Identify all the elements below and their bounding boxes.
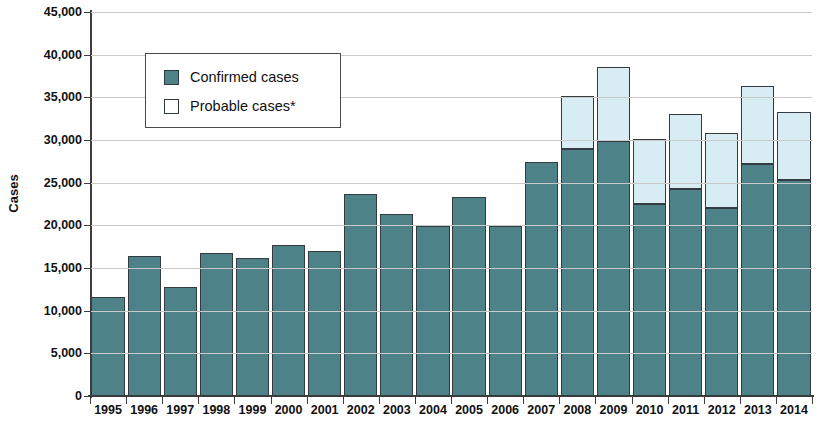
y-axis-tick-label: 30,000 (2, 134, 82, 147)
x-axis-tick-label: 2009 (600, 404, 628, 418)
x-axis-tick-label: 2000 (275, 404, 303, 418)
x-axis-tick-label: 1997 (166, 404, 194, 418)
legend-label: Confirmed cases (190, 70, 299, 85)
y-axis-tick (84, 353, 91, 354)
y-axis-tick-label: 35,000 (2, 91, 82, 104)
y-axis-tick (84, 12, 91, 13)
x-axis-tick (126, 396, 127, 404)
x-axis-tick-label: 2003 (383, 404, 411, 418)
x-axis-tick (451, 396, 452, 404)
legend-item: Confirmed cases (164, 63, 340, 92)
bar-segment-probable (669, 114, 702, 188)
y-axis-tick-label: 15,000 (2, 262, 82, 275)
bar-segment-confirmed (633, 204, 666, 396)
x-axis-tick (487, 396, 488, 404)
gridline (90, 311, 812, 312)
bar-segment-confirmed (777, 180, 810, 396)
x-axis-tick-label: 2007 (527, 404, 555, 418)
y-axis-tick-label: 40,000 (2, 48, 82, 61)
y-axis-tick (84, 268, 91, 269)
x-axis-tick-label: 2005 (455, 404, 483, 418)
bar-chart: Cases 45,00040,00035,00030,00025,00020,0… (0, 0, 818, 434)
y-axis-tick (84, 140, 91, 141)
x-axis-tick-label: 2013 (744, 404, 772, 418)
gridline (90, 225, 812, 226)
gridline (90, 140, 812, 141)
bar-segment-confirmed (741, 164, 774, 396)
bar-group (705, 133, 738, 396)
bar-group (525, 162, 558, 396)
y-axis-tick-label: 10,000 (2, 304, 82, 317)
legend-item: Probable cases* (164, 92, 340, 121)
x-axis-tick (812, 396, 813, 404)
x-axis-tick (559, 396, 560, 404)
y-axis-tick (84, 183, 91, 184)
bar-segment-confirmed (236, 258, 269, 396)
x-axis-tick-label: 1995 (94, 404, 122, 418)
bar-segment-confirmed (380, 214, 413, 396)
bar-group (91, 297, 124, 396)
x-axis-tick (704, 396, 705, 404)
bar-segment-probable (705, 133, 738, 208)
x-axis-tick (632, 396, 633, 404)
bar-group (236, 258, 269, 396)
x-axis-tick-label: 2001 (311, 404, 339, 418)
bar-segment-probable (597, 67, 630, 140)
x-axis-tick (379, 396, 380, 404)
y-axis-tick (84, 225, 91, 226)
legend-swatch-icon (164, 99, 179, 114)
x-axis-tick-label: 2010 (636, 404, 664, 418)
x-axis-tick-label: 2011 (672, 404, 699, 418)
bar-group (128, 256, 161, 396)
bar-segment-probable (633, 139, 666, 204)
bar-group (344, 194, 377, 396)
x-axis-tick (776, 396, 777, 404)
bar-group (741, 86, 774, 396)
y-axis-tick-label: 0 (2, 390, 82, 403)
bar-group (380, 214, 413, 396)
x-axis-tick-label: 2008 (563, 404, 591, 418)
bar-segment-confirmed (91, 297, 124, 396)
x-axis-tick-label: 2004 (419, 404, 447, 418)
bar-segment-confirmed (308, 251, 341, 396)
bar-segment-confirmed (452, 197, 485, 396)
gridline (90, 183, 812, 184)
x-axis-tick (307, 396, 308, 404)
legend-swatch-icon (164, 70, 179, 85)
x-axis-tick-label: 2012 (708, 404, 736, 418)
y-axis-tick-label: 5,000 (2, 347, 82, 360)
gridline (90, 12, 812, 13)
y-axis-tick-label: 20,000 (2, 219, 82, 232)
x-axis-tick-label: 1999 (239, 404, 267, 418)
bar-segment-confirmed (525, 162, 558, 396)
bar-segment-confirmed (164, 287, 197, 396)
gridline (90, 353, 812, 354)
bar-segment-confirmed (344, 194, 377, 396)
x-axis-tick-label: 2006 (491, 404, 519, 418)
bar-group (452, 197, 485, 396)
x-axis-tick-label: 1998 (202, 404, 230, 418)
x-axis-tick (343, 396, 344, 404)
bar-group (164, 287, 197, 396)
bar-segment-probable (777, 112, 810, 180)
x-axis-tick (595, 396, 596, 404)
x-axis-tick (740, 396, 741, 404)
bar-group (200, 253, 233, 396)
x-axis-tick (90, 396, 91, 404)
y-axis-tick (84, 97, 91, 98)
x-axis-tick-label: 1996 (130, 404, 158, 418)
x-axis-tick (198, 396, 199, 404)
x-axis-tick (271, 396, 272, 404)
bar-segment-confirmed (705, 208, 738, 396)
bar-group (597, 67, 630, 396)
x-axis-tick (668, 396, 669, 404)
y-axis-tick-labels: 45,00040,00035,00030,00025,00020,00015,0… (0, 0, 82, 434)
bar-segment-confirmed (669, 189, 702, 396)
x-axis-tick-labels: 1995199619971998199920002001200220032004… (90, 404, 812, 428)
legend-label: Probable cases* (190, 99, 296, 114)
x-axis-tick (162, 396, 163, 404)
bar-segment-confirmed (128, 256, 161, 396)
bar-segment-confirmed (561, 149, 594, 396)
gridline (90, 268, 812, 269)
chart-legend: Confirmed casesProbable cases* (145, 53, 341, 128)
